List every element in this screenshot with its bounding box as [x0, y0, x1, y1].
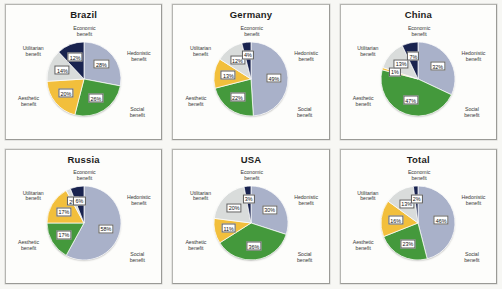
category-label-line2: benefit	[408, 176, 430, 182]
chart-cell-russia: Russia58%17%17%2%6%HedonisticbenefitSoci…	[0, 145, 167, 289]
plot-area: 28%26%20%14%12%HedonisticbenefitSocialbe…	[6, 21, 161, 137]
value-label-social: 17%	[56, 230, 71, 239]
pie-brazil	[47, 42, 121, 116]
category-label-line2: benefit	[18, 246, 39, 252]
category-label-line2: benefit	[190, 52, 211, 58]
value-label-hedonistic: 46%	[433, 216, 448, 225]
pie-wrapper: 46%23%16%13%2%	[381, 186, 455, 260]
value-label-economic: 4%	[242, 50, 254, 59]
value-label-utilitarian: 14%	[55, 66, 70, 75]
value-label-hedonistic: 30%	[262, 205, 277, 214]
category-label-line2: benefit	[464, 258, 479, 264]
category-label-line2: benefit	[294, 201, 318, 207]
chart-cell-brazil: Brazil28%26%20%14%12%HedonisticbenefitSo…	[0, 0, 167, 145]
category-label-line2: benefit	[127, 57, 151, 63]
value-label-aesthetic: 20%	[58, 89, 73, 98]
category-label-utilitarian: Utilitarianbenefit	[357, 191, 378, 203]
category-label-line2: benefit	[462, 57, 486, 63]
value-label-hedonistic: 28%	[94, 60, 109, 69]
chart-title: Russia	[6, 155, 161, 165]
chart-cell-usa: USA30%36%11%20%3%HedonisticbenefitSocial…	[167, 145, 334, 289]
category-label-utilitarian: Utilitarianbenefit	[190, 191, 211, 203]
category-label-aesthetic: Aestheticbenefit	[353, 96, 374, 108]
plot-area: 32%47%1%13%7%HedonisticbenefitSocialbene…	[341, 21, 496, 137]
chart-title: Germany	[173, 10, 328, 20]
category-label-economic: Economicbenefit	[73, 26, 95, 38]
pie-chart-grid: Brazil28%26%20%14%12%HedonisticbenefitSo…	[0, 0, 502, 289]
value-label-social: 47%	[403, 96, 418, 105]
category-label-line2: benefit	[23, 52, 44, 58]
chart-panel: USA30%36%11%20%3%HedonisticbenefitSocial…	[172, 149, 329, 285]
category-label-economic: Economicbenefit	[408, 26, 430, 38]
chart-title: USA	[173, 155, 328, 165]
category-label-line2: benefit	[241, 176, 263, 182]
category-label-line2: benefit	[297, 258, 312, 264]
chart-title: Total	[341, 155, 496, 165]
category-label-hedonistic: Hedonisticbenefit	[127, 196, 151, 208]
category-label-line2: benefit	[294, 57, 318, 63]
category-label-social: Socialbenefit	[130, 108, 145, 120]
plot-area: 49%22%13%12%4%HedonisticbenefitSocialben…	[173, 21, 328, 137]
category-label-line2: benefit	[353, 102, 374, 108]
category-label-economic: Economicbenefit	[73, 171, 95, 183]
value-label-economic: 7%	[407, 52, 419, 61]
category-label-hedonistic: Hedonisticbenefit	[127, 51, 151, 63]
category-label-line2: benefit	[73, 32, 95, 38]
chart-panel: Brazil28%26%20%14%12%HedonisticbenefitSo…	[5, 4, 162, 140]
value-label-social: 23%	[400, 239, 415, 248]
category-label-line2: benefit	[130, 258, 145, 264]
value-label-social: 22%	[230, 93, 245, 102]
category-label-utilitarian: Utilitarianbenefit	[190, 46, 211, 58]
category-label-utilitarian: Utilitarianbenefit	[23, 191, 44, 203]
category-label-line2: benefit	[241, 32, 263, 38]
category-label-social: Socialbenefit	[297, 252, 312, 264]
category-label-line2: benefit	[18, 102, 39, 108]
value-label-utilitarian: 20%	[227, 203, 242, 212]
value-label-hedonistic: 49%	[266, 74, 281, 83]
category-label-line2: benefit	[185, 246, 206, 252]
category-label-line2: benefit	[464, 113, 479, 119]
chart-title: China	[341, 10, 496, 20]
value-label-aesthetic: 16%	[388, 216, 403, 225]
category-label-line2: benefit	[23, 197, 44, 203]
chart-cell-germany: Germany49%22%13%12%4%HedonisticbenefitSo…	[167, 0, 334, 145]
category-label-line2: benefit	[357, 197, 378, 203]
value-label-aesthetic: 13%	[221, 71, 236, 80]
plot-area: 30%36%11%20%3%HedonisticbenefitSocialben…	[173, 166, 328, 282]
category-label-aesthetic: Aestheticbenefit	[18, 241, 39, 253]
pie-wrapper: 32%47%1%13%7%	[381, 42, 455, 116]
category-label-aesthetic: Aestheticbenefit	[18, 96, 39, 108]
value-label-aesthetic: 11%	[221, 224, 236, 233]
category-label-social: Socialbenefit	[297, 108, 312, 120]
category-label-line2: benefit	[408, 32, 430, 38]
chart-panel: China32%47%1%13%7%HedonisticbenefitSocia…	[340, 4, 497, 140]
plot-area: 46%23%16%13%2%HedonisticbenefitSocialben…	[341, 166, 496, 282]
pie-wrapper: 30%36%11%20%3%	[214, 186, 288, 260]
category-label-economic: Economicbenefit	[241, 171, 263, 183]
chart-panel: Russia58%17%17%2%6%HedonisticbenefitSoci…	[5, 149, 162, 285]
category-label-line2: benefit	[190, 197, 211, 203]
chart-cell-china: China32%47%1%13%7%HedonisticbenefitSocia…	[335, 0, 502, 145]
value-label-hedonistic: 58%	[98, 224, 113, 233]
chart-panel: Germany49%22%13%12%4%HedonisticbenefitSo…	[172, 4, 329, 140]
value-label-social: 26%	[88, 94, 103, 103]
category-label-economic: Economicbenefit	[241, 26, 263, 38]
category-label-line2: benefit	[297, 113, 312, 119]
category-label-aesthetic: Aestheticbenefit	[185, 241, 206, 253]
category-label-line2: benefit	[130, 113, 145, 119]
category-label-social: Socialbenefit	[130, 252, 145, 264]
value-label-economic: 3%	[243, 194, 255, 203]
pie-wrapper: 28%26%20%14%12%	[47, 42, 121, 116]
value-label-social: 36%	[246, 242, 261, 251]
pie-wrapper: 49%22%13%12%4%	[214, 42, 288, 116]
category-label-line2: benefit	[462, 201, 486, 207]
category-label-utilitarian: Utilitarianbenefit	[357, 46, 378, 58]
category-label-line2: benefit	[353, 246, 374, 252]
value-label-economic: 12%	[68, 53, 83, 62]
chart-panel: Total46%23%16%13%2%HedonisticbenefitSoci…	[340, 149, 497, 285]
category-label-hedonistic: Hedonisticbenefit	[294, 51, 318, 63]
category-label-line2: benefit	[127, 201, 151, 207]
value-label-aesthetic: 1%	[389, 67, 401, 76]
category-label-utilitarian: Utilitarianbenefit	[23, 46, 44, 58]
category-label-social: Socialbenefit	[464, 252, 479, 264]
